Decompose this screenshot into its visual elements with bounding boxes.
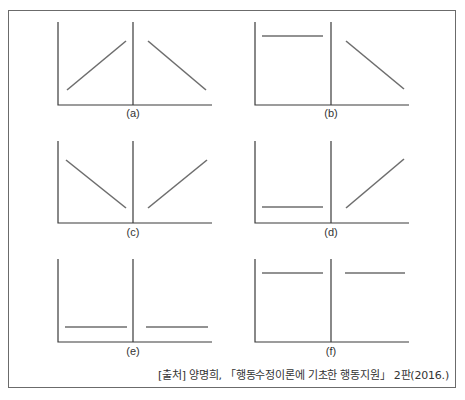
panel-c-label: (c) <box>127 226 140 238</box>
panel-f: (f) <box>255 259 409 357</box>
panel-grid: (a) (b) (c) (d) (e) (f) <box>0 0 465 400</box>
panel-b-label: (b) <box>324 107 337 119</box>
panel-e-label: (e) <box>126 345 139 357</box>
source-citation: [출처] 양명희, 「행동수정이론에 기초한 행동지원」 2판(2016.) <box>158 366 449 382</box>
panel-f-axes <box>255 259 409 342</box>
panel-a-left-line <box>67 41 126 90</box>
panel-b-right-line <box>346 41 404 89</box>
panel-b-axes <box>255 22 409 105</box>
panel-c-axes <box>58 141 212 223</box>
panel-d-axes <box>255 141 409 223</box>
panel-a: (a) <box>58 22 212 119</box>
panel-c: (c) <box>58 141 212 238</box>
panel-a-right-line <box>148 41 206 90</box>
panel-d-label: (d) <box>324 226 337 238</box>
panel-a-axes <box>58 22 212 105</box>
panel-a-label: (a) <box>126 107 139 119</box>
panel-c-right-line <box>148 160 207 208</box>
panel-f-label: (f) <box>326 345 336 357</box>
panel-e: (e) <box>58 259 212 357</box>
panel-e-axes <box>58 259 212 342</box>
panel-d-right-line <box>346 159 404 208</box>
panel-d: (d) <box>255 141 409 238</box>
panel-b: (b) <box>255 22 409 119</box>
panel-c-left-line <box>66 160 126 208</box>
